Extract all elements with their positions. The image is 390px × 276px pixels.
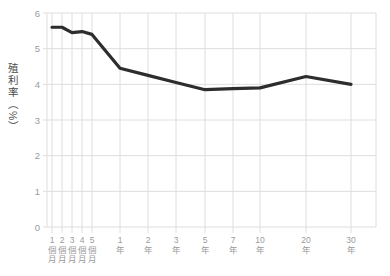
x-tick-label: 2年 <box>144 235 153 255</box>
yield-curve-chart: 殖利率（%） 01234561個月2個月3個月4個月5個月1年2年3年5年7年1… <box>0 0 390 276</box>
y-tick-label: 5 <box>35 43 40 54</box>
x-tick-label: 4個月 <box>78 235 87 264</box>
y-tick-label: 3 <box>35 115 40 126</box>
x-tick-label: 30年 <box>346 235 356 255</box>
y-axis-title: 殖利率（%） <box>7 63 18 143</box>
y-tick-label: 1 <box>35 186 40 197</box>
x-tick-label: 1年 <box>116 235 125 255</box>
y-tick-label: 4 <box>35 79 40 90</box>
x-tick-label: 3個月 <box>68 235 77 264</box>
y-tick-label: 6 <box>35 8 40 19</box>
chart-plot-area: 01234561個月2個月3個月4個月5個月1年2年3年5年7年10年20年30… <box>0 0 390 276</box>
y-tick-label: 2 <box>35 150 40 161</box>
x-tick-label: 7年 <box>229 235 238 255</box>
x-tick-label: 5年 <box>201 235 210 255</box>
x-tick-label: 2個月 <box>58 235 67 264</box>
y-tick-label: 0 <box>35 222 40 233</box>
x-tick-label: 3年 <box>172 235 181 255</box>
x-tick-label: 10年 <box>255 235 265 255</box>
x-tick-label: 1個月 <box>48 235 57 264</box>
x-tick-label: 5個月 <box>88 235 97 264</box>
x-tick-label: 20年 <box>301 235 311 255</box>
